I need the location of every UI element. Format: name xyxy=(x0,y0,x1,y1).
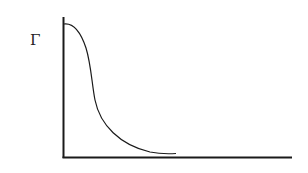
chart-plot xyxy=(0,0,308,173)
data-curve xyxy=(64,24,176,154)
